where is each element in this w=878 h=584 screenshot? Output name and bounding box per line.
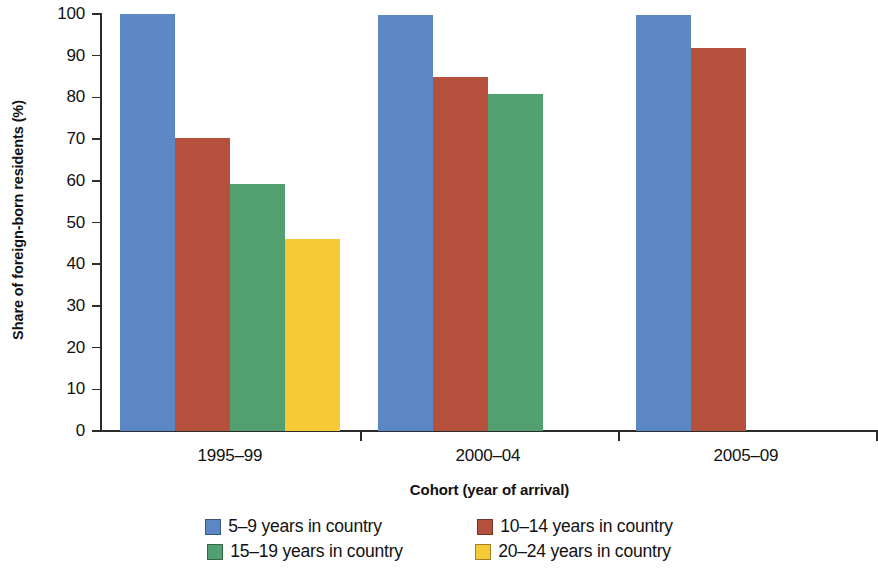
y-axis-title-text: Share of foreign-born residents (%) <box>10 100 26 340</box>
bar <box>636 15 691 431</box>
legend-item: 5–9 years in country <box>205 516 477 537</box>
legend-label: 15–19 years in country <box>230 541 403 562</box>
y-axis-tick <box>92 305 101 307</box>
legend-label: 10–14 years in country <box>500 516 673 537</box>
y-axis-tick-label: 60 <box>33 171 85 191</box>
plot-area <box>101 14 878 431</box>
x-axis-tick <box>360 431 362 441</box>
bar <box>691 48 746 431</box>
y-axis-tick <box>92 97 101 99</box>
x-axis-tick <box>618 431 620 441</box>
bar <box>285 239 340 431</box>
y-axis-tick <box>92 222 101 224</box>
y-axis-tick <box>92 13 101 15</box>
legend-item: 10–14 years in country <box>477 516 673 537</box>
legend-swatch-icon <box>205 519 221 535</box>
y-axis-tick <box>92 263 101 265</box>
bar <box>378 15 433 431</box>
y-axis-tick-label: 100 <box>33 4 85 24</box>
y-axis-tick-label: 0 <box>33 421 85 441</box>
legend-item: 15–19 years in country <box>207 541 475 562</box>
legend-label: 20–24 years in country <box>498 541 671 562</box>
y-axis-title: Share of foreign-born residents (%) <box>0 0 36 440</box>
bar <box>120 14 175 431</box>
y-axis-tick-label: 90 <box>33 46 85 66</box>
x-axis-group-label: 1995–99 <box>160 446 300 466</box>
bar <box>433 77 488 431</box>
y-axis-tick-label: 30 <box>33 296 85 316</box>
bar-chart: Share of foreign-born residents (%) 0102… <box>0 0 878 584</box>
y-axis-tick <box>92 430 101 432</box>
y-axis-tick <box>92 347 101 349</box>
x-axis-group-label: 2000–04 <box>418 446 558 466</box>
x-axis-tick <box>876 431 878 441</box>
legend-swatch-icon <box>477 519 493 535</box>
bar <box>488 94 543 431</box>
y-axis-tick <box>92 138 101 140</box>
bar <box>230 184 285 431</box>
y-axis-tick-label: 10 <box>33 379 85 399</box>
y-axis-tick-label: 50 <box>33 213 85 233</box>
legend-row: 15–19 years in country20–24 years in cou… <box>207 541 671 562</box>
legend-swatch-icon <box>207 544 223 560</box>
y-axis-tick <box>92 180 101 182</box>
y-axis-tick-label: 70 <box>33 129 85 149</box>
x-axis-title: Cohort (year of arrival) <box>101 481 878 498</box>
y-axis-tick <box>92 389 101 391</box>
legend-label: 5–9 years in country <box>228 516 382 537</box>
chart-legend: 5–9 years in country10–14 years in count… <box>0 516 878 562</box>
y-axis-tick-label: 20 <box>33 338 85 358</box>
y-axis-tick-label: 80 <box>33 87 85 107</box>
x-axis-group-label: 2005–09 <box>676 446 816 466</box>
legend-swatch-icon <box>475 544 491 560</box>
y-axis-tick-label: 40 <box>33 254 85 274</box>
y-axis-tick <box>92 55 101 57</box>
legend-row: 5–9 years in country10–14 years in count… <box>205 516 673 537</box>
bar <box>175 138 230 431</box>
legend-item: 20–24 years in country <box>475 541 671 562</box>
